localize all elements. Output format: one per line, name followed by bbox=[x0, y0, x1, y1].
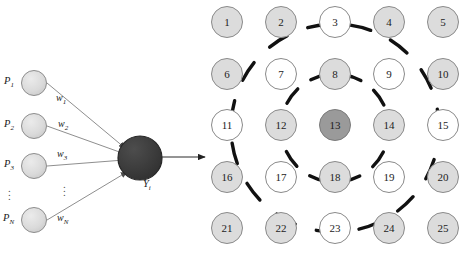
output-label: Yi bbox=[143, 178, 151, 192]
weight-label-1: w1 bbox=[56, 92, 66, 106]
grid-cell-label: 8 bbox=[332, 68, 338, 80]
grid-cell-19[interactable]: 19 bbox=[373, 161, 405, 193]
grid-cell-16[interactable]: 16 bbox=[211, 161, 243, 193]
grid-cell-label: 10 bbox=[438, 68, 449, 80]
grid-cell-15[interactable]: 15 bbox=[427, 109, 459, 141]
grid-cell-label: 19 bbox=[384, 171, 395, 183]
grid-rings-panel: 1234567891011121314151617181920212223242… bbox=[200, 0, 461, 258]
grid-cell-8[interactable]: 8 bbox=[319, 58, 351, 90]
grid-cell-label: 4 bbox=[386, 16, 392, 28]
grid-cell-1[interactable]: 1 bbox=[211, 6, 243, 38]
grid-cell-2[interactable]: 2 bbox=[265, 6, 297, 38]
input-label-3: P3 bbox=[4, 158, 14, 172]
grid-cell-21[interactable]: 21 bbox=[211, 212, 243, 244]
grid-cell-label: 25 bbox=[438, 222, 449, 234]
grid-cell-label: 24 bbox=[384, 222, 395, 234]
grid-cell-label: 2 bbox=[278, 16, 284, 28]
grid-cell-22[interactable]: 22 bbox=[265, 212, 297, 244]
grid-cell-24[interactable]: 24 bbox=[373, 212, 405, 244]
grid-cell-label: 13 bbox=[330, 119, 341, 131]
grid-cell-23[interactable]: 23 bbox=[319, 212, 351, 244]
input-label-2: P2 bbox=[4, 118, 14, 132]
grid-cell-label: 16 bbox=[222, 171, 233, 183]
input-label-1: P1 bbox=[4, 75, 14, 89]
grid-cell-label: 21 bbox=[222, 222, 233, 234]
grid-cell-label: 5 bbox=[440, 16, 446, 28]
grid-cell-label: 1 bbox=[224, 16, 230, 28]
grid-cell-label: 15 bbox=[438, 119, 449, 131]
grid-cell-9[interactable]: 9 bbox=[373, 58, 405, 90]
grid-cell-6[interactable]: 6 bbox=[211, 58, 243, 90]
grid-cell-4[interactable]: 4 bbox=[373, 6, 405, 38]
grid-cell-20[interactable]: 20 bbox=[427, 161, 459, 193]
grid-cell-label: 9 bbox=[386, 68, 392, 80]
grid-cell-label: 23 bbox=[330, 222, 341, 234]
grid-cell-label: 12 bbox=[276, 119, 287, 131]
grid-cell-17[interactable]: 17 bbox=[265, 161, 297, 193]
grid-cell-25[interactable]: 25 bbox=[427, 212, 459, 244]
grid-cell-18[interactable]: 18 bbox=[319, 161, 351, 193]
grid-cell-label: 6 bbox=[224, 68, 230, 80]
grid-cell-12[interactable]: 12 bbox=[265, 109, 297, 141]
grid-cell-label: 22 bbox=[276, 222, 287, 234]
grid-cell-label: 11 bbox=[222, 119, 233, 131]
input-ellipsis: ... bbox=[8, 186, 11, 198]
grid-cell-13[interactable]: 13 bbox=[319, 109, 351, 141]
weight-label-n: wN bbox=[57, 212, 68, 226]
grid-cell-label: 18 bbox=[330, 171, 341, 183]
figure-root: P1 P2 P3 PN w1 w2 w3 wN Yi ... bbox=[0, 0, 461, 258]
grid-cell-5[interactable]: 5 bbox=[427, 6, 459, 38]
neuron-model-panel: P1 P2 P3 PN w1 w2 w3 wN Yi ... bbox=[0, 0, 215, 258]
input-label-n: PN bbox=[3, 212, 14, 226]
weight-label-2: w2 bbox=[58, 118, 68, 132]
weight-ellipsis: ... bbox=[63, 182, 66, 194]
grid-cell-label: 20 bbox=[438, 171, 449, 183]
output-node bbox=[118, 136, 162, 180]
grid-cell-label: 7 bbox=[278, 68, 284, 80]
weight-label-3: w3 bbox=[57, 148, 67, 162]
grid-cell-7[interactable]: 7 bbox=[265, 58, 297, 90]
grid-cell-14[interactable]: 14 bbox=[373, 109, 405, 141]
grid-cell-label: 3 bbox=[332, 16, 338, 28]
grid-cell-label: 17 bbox=[276, 171, 287, 183]
grid-cell-3[interactable]: 3 bbox=[319, 6, 351, 38]
grid-cell-label: 14 bbox=[384, 119, 395, 131]
grid-cell-11[interactable]: 11 bbox=[211, 109, 243, 141]
grid-cell-10[interactable]: 10 bbox=[427, 58, 459, 90]
input-nodes bbox=[22, 71, 47, 233]
neuron-edges-svg bbox=[0, 0, 215, 258]
